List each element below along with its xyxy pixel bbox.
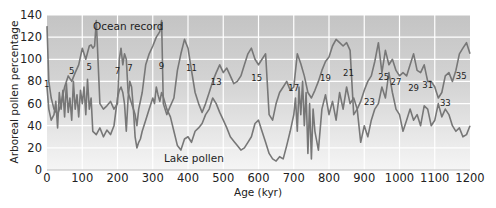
marine-isotope-stage-label: 7 xyxy=(127,63,132,73)
marine-isotope-stage-label: 17 xyxy=(288,83,299,93)
marine-isotope-stage-label: 25 xyxy=(378,72,389,82)
y-tick-label: 140 xyxy=(20,8,42,22)
marine-isotope-stage-label: 31 xyxy=(422,80,433,90)
x-tick-label: 200 xyxy=(107,171,129,185)
marine-isotope-stage-label: 35 xyxy=(456,71,467,81)
y-tick-label: 40 xyxy=(27,119,42,133)
x-tick-label: 900 xyxy=(353,171,375,185)
y-tick-label: 0 xyxy=(35,163,42,177)
marine-isotope-stage-label: 13 xyxy=(211,77,222,87)
marine-isotope-stage-label: 15 xyxy=(251,73,262,83)
marine-isotope-stage-label: 33 xyxy=(440,98,451,108)
marine-isotope-stage-label: 23 xyxy=(364,97,375,107)
y-tick-label: 20 xyxy=(27,141,42,155)
x-tick-label: 300 xyxy=(142,171,164,185)
x-tick-label: 700 xyxy=(283,171,305,185)
lake-pollen-label: Lake pollen xyxy=(164,152,224,164)
pollen-chart: 15577911131517192123252729313335 0204060… xyxy=(0,0,496,208)
x-tick-label: 500 xyxy=(212,171,234,185)
marine-isotope-stage-label: 5 xyxy=(69,66,74,76)
y-tick-label: 120 xyxy=(20,30,42,44)
x-tick-label: 1200 xyxy=(455,171,484,185)
marine-isotope-stage-label: 7 xyxy=(115,66,120,76)
x-tick-label: 1100 xyxy=(420,171,449,185)
x-tick-label: 100 xyxy=(71,171,93,185)
x-tick-label: 800 xyxy=(318,171,340,185)
x-tick-label: 1000 xyxy=(385,171,414,185)
marine-isotope-stage-label: 1 xyxy=(44,79,49,89)
y-tick-label: 60 xyxy=(27,97,42,111)
marine-isotope-stage-label: 11 xyxy=(186,63,197,73)
y-axis-title: Arboreal pollen percentage xyxy=(8,21,20,164)
x-axis-title: Age (kyr) xyxy=(234,186,282,198)
marine-isotope-stage-label: 27 xyxy=(391,77,402,87)
marine-isotope-stage-label: 5 xyxy=(87,62,92,72)
x-tick-label: 600 xyxy=(248,171,270,185)
y-axis-ticks: 020406080100120140 xyxy=(20,8,42,177)
x-tick-label: 400 xyxy=(177,171,199,185)
x-tick-label: 0 xyxy=(43,171,50,185)
y-tick-label: 100 xyxy=(20,52,42,66)
x-axis-ticks: 0100200300400500600700800900100011001200 xyxy=(43,171,484,185)
marine-isotope-stage-label: 21 xyxy=(343,68,354,78)
marine-isotope-stage-label: 29 xyxy=(408,83,419,93)
marine-isotope-stage-label: 9 xyxy=(159,61,164,71)
marine-isotope-stage-label: 19 xyxy=(320,73,331,83)
y-tick-label: 80 xyxy=(27,74,42,88)
ocean-record-label: Ocean record xyxy=(93,20,163,32)
